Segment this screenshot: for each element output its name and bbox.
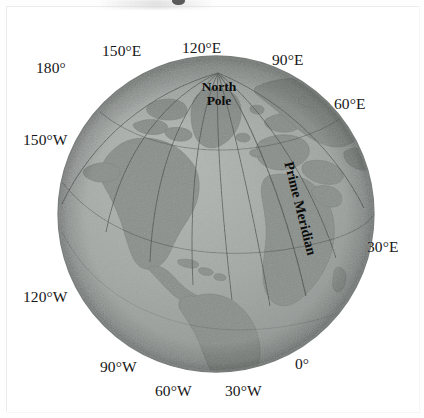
- meridian-label-60W: 60°W: [155, 382, 192, 400]
- meridian-label-120E: 120°E: [182, 39, 221, 57]
- figure-page: 180° 150°E 120°E 90°E 60°E 30°E 0° 30°W …: [0, 0, 424, 418]
- meridian-label-90E: 90°E: [272, 51, 304, 69]
- north-pole-label: North Pole: [188, 80, 250, 108]
- meridian-label-150W: 150°W: [23, 131, 68, 149]
- meridian-label-180: 180°: [36, 59, 66, 77]
- meridian-label-60E: 60°E: [334, 95, 366, 113]
- meridian-label-120W: 120°W: [23, 288, 68, 306]
- meridian-label-90W: 90°W: [100, 358, 137, 376]
- meridian-label-0: 0°: [295, 355, 309, 373]
- north-pole-label-line1: North: [202, 79, 237, 94]
- meridian-label-30W: 30°W: [225, 382, 262, 400]
- north-pole-label-line2: Pole: [207, 93, 232, 108]
- meridian-label-30E: 30°E: [367, 238, 399, 256]
- meridian-label-150E: 150°E: [102, 42, 141, 60]
